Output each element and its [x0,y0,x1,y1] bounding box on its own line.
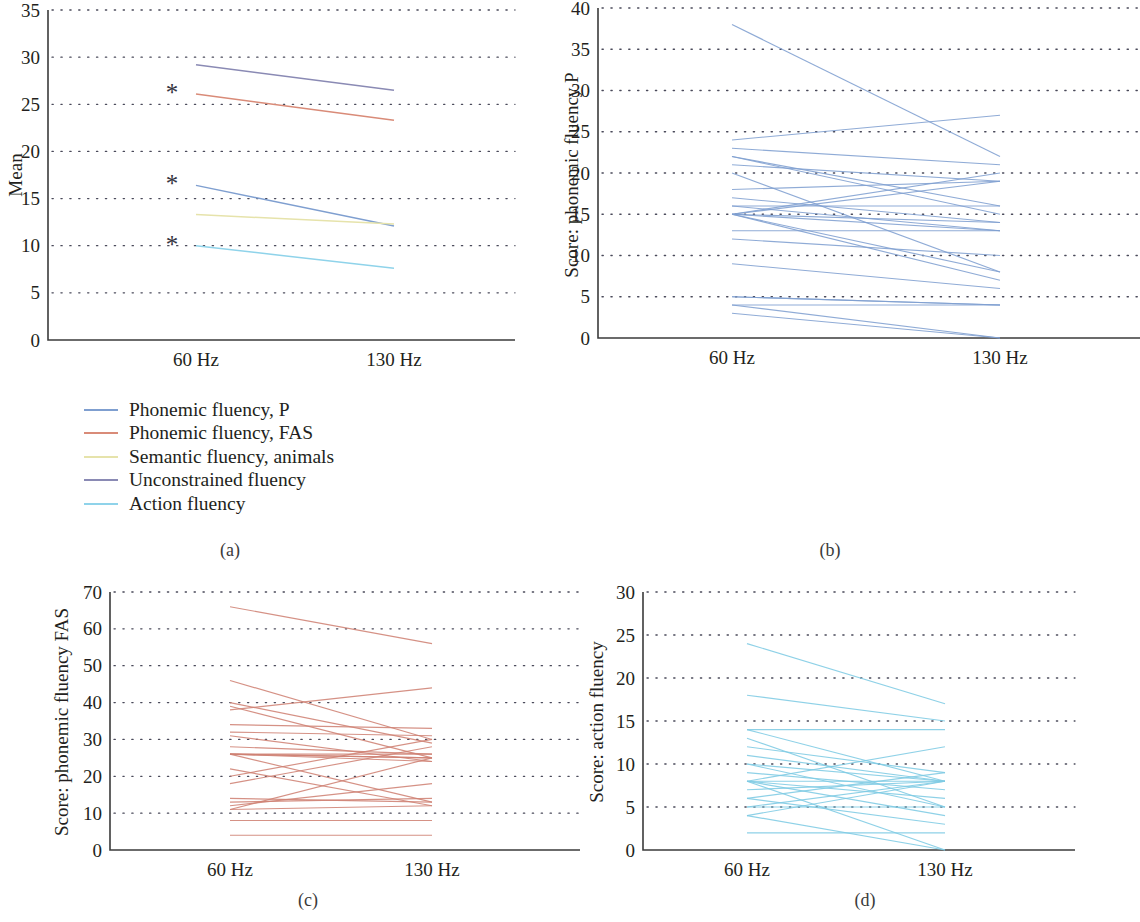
subject-trajectory-line [230,806,432,810]
subject-trajectory-line [747,695,945,721]
panel-d-series [747,644,945,850]
legend-label-phonemic-fas: Phonemic fluency, FAS [129,422,313,444]
svg-text:0: 0 [31,330,41,351]
svg-text:0: 0 [626,840,636,861]
svg-text:10: 10 [21,235,40,256]
panel-caption-a: (a) [200,540,260,561]
legend-swatch-action [84,503,118,505]
svg-text:20: 20 [616,668,635,689]
panel-b-grid [602,8,1140,297]
subject-trajectory-line [732,148,1000,165]
legend-label-unconstrained: Unconstrained fluency [129,469,306,491]
svg-text:20: 20 [83,766,102,787]
svg-text:25: 25 [616,625,635,646]
panel-caption-b: (b) [800,540,860,561]
figure-root: 05101520253035 60 Hz130 Hz *** Mean 0510… [0,0,1140,922]
panel-a-y-axis-title: Mean [5,153,26,197]
subject-trajectory-line [732,264,1000,289]
legend-swatch-unconstrained [84,479,118,481]
panel-c-plot: 010203040506070 60 Hz130 Hz Score: phone… [50,582,590,882]
svg-text:60 Hz: 60 Hz [724,859,770,880]
subject-trajectory-line [747,781,945,850]
svg-text:35: 35 [571,39,590,60]
panel-a-xticks: 60 Hz130 Hz [173,349,422,370]
svg-text:5: 5 [626,797,636,818]
panel-c: 010203040506070 60 Hz130 Hz Score: phone… [50,582,590,882]
panel-a-annotations: *** [166,79,179,258]
subject-trajectory-line [747,764,945,781]
panel-b: 0510152025303540 60 Hz130 Hz Score: phon… [560,0,1140,370]
svg-text:60 Hz: 60 Hz [173,349,219,370]
svg-text:30: 30 [616,582,635,603]
series-line [196,246,394,269]
legend-swatch-semantic-animals [84,456,118,458]
subject-trajectory-line [732,297,1000,305]
panel-d-xticks: 60 Hz130 Hz [724,859,973,880]
panel-a: 05101520253035 60 Hz130 Hz *** Mean [0,0,560,370]
svg-text:60 Hz: 60 Hz [207,859,253,880]
panel-b-y-axis-title: Score: phonemic fluency P [561,72,582,277]
panel-a-grid [52,10,515,293]
svg-text:5: 5 [31,282,41,303]
subject-trajectory-line [230,703,432,744]
svg-text:10: 10 [83,803,102,824]
panel-d: 051015202530 60 Hz130 Hz Score: action f… [585,582,1085,882]
panel-c-axes [110,592,580,850]
subject-trajectory-line [732,181,1000,189]
subject-trajectory-line [732,157,1000,207]
svg-text:35: 35 [21,0,40,21]
panel-d-axes [643,592,1075,850]
svg-text:15: 15 [616,711,635,732]
subject-trajectory-line [732,239,1000,256]
panel-d-y-axis-title: Score: action fluency [586,641,607,803]
panel-a-plot: 05101520253035 60 Hz130 Hz *** Mean [0,0,560,370]
svg-text:30: 30 [83,729,102,750]
panel-d-grid [647,592,1075,807]
legend-label-semantic-animals: Semantic fluency, animals [129,446,334,468]
svg-text:10: 10 [616,754,635,775]
subject-trajectory-line [747,781,945,798]
legend-item: Action fluency [84,492,404,516]
svg-text:50: 50 [83,655,102,676]
panel-a-axes [48,10,515,340]
panel-d-plot: 051015202530 60 Hz130 Hz Score: action f… [585,582,1085,882]
panel-caption-c: (c) [278,890,338,911]
svg-text:25: 25 [21,94,40,115]
subject-trajectory-line [747,644,945,704]
significance-asterisk: * [166,170,179,197]
subject-trajectory-line [230,725,432,729]
svg-text:130 Hz: 130 Hz [972,347,1027,368]
series-line [196,94,394,120]
legend-item: Phonemic fluency, FAS [84,422,404,446]
svg-text:60 Hz: 60 Hz [709,347,755,368]
subject-trajectory-line [230,607,432,644]
panel-b-series [732,25,1000,339]
svg-text:40: 40 [83,692,102,713]
svg-text:40: 40 [571,0,590,19]
subject-trajectory-line [230,688,432,710]
legend-label-phonemic-p: Phonemic fluency, P [129,399,290,421]
legend-label-action: Action fluency [129,493,245,515]
subject-trajectory-line [732,181,1000,214]
svg-text:70: 70 [83,582,102,603]
legend-item: Phonemic fluency, P [84,398,404,422]
subject-trajectory-line [747,730,945,782]
panel-c-y-axis-title: Score: phonemic fluency FAS [51,608,72,836]
svg-text:130 Hz: 130 Hz [366,349,421,370]
legend: Phonemic fluency, P Phonemic fluency, FA… [84,398,404,516]
legend-item: Unconstrained fluency [84,469,404,493]
panel-c-series [230,607,432,836]
panel-c-xticks: 60 Hz130 Hz [207,859,460,880]
significance-asterisk: * [166,79,179,106]
series-line [196,65,394,90]
significance-asterisk: * [166,231,179,258]
subject-trajectory-line [732,313,1000,338]
panel-d-yticks: 051015202530 [616,582,635,861]
subject-trajectory-line [732,305,1000,338]
svg-text:60: 60 [83,618,102,639]
legend-swatch-phonemic-fas [84,432,118,434]
panel-a-series [196,65,394,269]
legend-item: Semantic fluency, animals [84,445,404,469]
subject-trajectory-line [732,173,1000,214]
panel-b-xticks: 60 Hz130 Hz [709,347,1028,368]
